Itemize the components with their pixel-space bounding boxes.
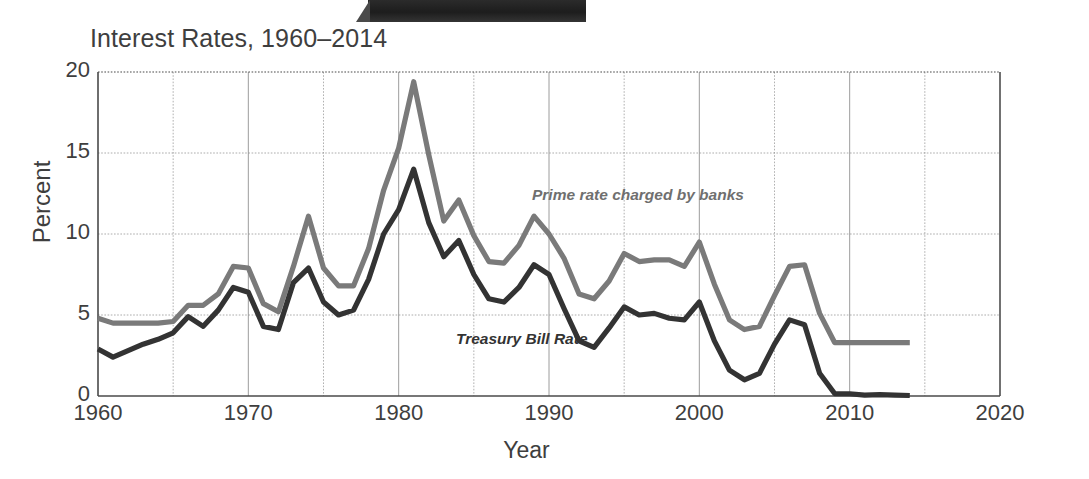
series-lines [98,82,910,396]
series-annotation-prime-rate: Prime rate charged by banks [532,186,744,204]
series-annotation-treasury-bill: Treasury Bill Rate [456,330,588,348]
chart-plot-area [0,0,1089,479]
